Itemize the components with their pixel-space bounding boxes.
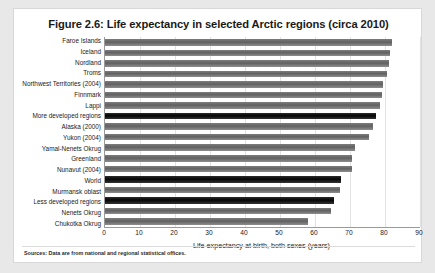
bar-row <box>105 153 420 163</box>
bar <box>105 113 376 120</box>
bar <box>105 166 352 173</box>
category-label: Troms <box>14 69 103 76</box>
x-tick-label: 50 <box>275 229 282 236</box>
category-label: Nordland <box>14 59 103 66</box>
category-label: Iceland <box>14 48 103 55</box>
bar-row <box>105 37 420 47</box>
bar-row <box>105 111 420 121</box>
category-label: Nunavut (2004) <box>14 166 103 173</box>
source-note: Sources: Data are from national and regi… <box>24 250 186 256</box>
bar-row <box>105 185 420 195</box>
category-label: Finnmark <box>14 91 103 98</box>
bar-row <box>105 206 420 216</box>
category-label: Chukotka Okrug <box>14 220 103 227</box>
bar <box>105 134 369 141</box>
x-tick-label: 70 <box>345 229 352 236</box>
bar <box>105 50 390 57</box>
bar-row <box>105 48 420 58</box>
x-tick-label: 40 <box>240 229 247 236</box>
category-label: Yukon (2004) <box>14 134 103 141</box>
category-label: Murmansk oblast <box>14 188 103 195</box>
gridline <box>420 37 421 227</box>
x-tick-label: 90 <box>415 229 422 236</box>
figure-card: Figure 2.6: Life expectancy in selected … <box>13 8 422 263</box>
category-label: Yamal-Nenets Okrug <box>14 145 103 152</box>
x-tick-label: 60 <box>310 229 317 236</box>
category-label: World <box>14 177 103 184</box>
bar-row <box>105 79 420 89</box>
x-tick-label: 30 <box>205 229 212 236</box>
bar <box>105 71 387 78</box>
bar-row <box>105 143 420 153</box>
x-axis-ticks: 0102030405060708090 <box>104 229 419 241</box>
category-label: Greenland <box>14 155 103 162</box>
bar-row <box>105 101 420 111</box>
bar-row <box>105 122 420 132</box>
category-axis-labels: Faroe IslandsIcelandNordlandTromsNorthwe… <box>14 37 103 227</box>
bar <box>105 39 392 46</box>
category-label: Less developed regions <box>14 198 103 205</box>
bar-row <box>105 69 420 79</box>
bar <box>105 123 373 130</box>
bar-row <box>105 164 420 174</box>
bar <box>105 176 341 183</box>
bar-row <box>105 58 420 68</box>
bar-row <box>105 90 420 100</box>
bar <box>105 208 331 215</box>
x-tick-label: 0 <box>102 229 106 236</box>
x-tick-label: 10 <box>135 229 142 236</box>
bar <box>105 102 380 109</box>
bar-series <box>105 37 420 227</box>
bar-row <box>105 195 420 205</box>
bar <box>105 144 355 151</box>
category-label: Lappi <box>14 102 103 109</box>
chart-plot-wrapper: Faroe IslandsIcelandNordlandTromsNorthwe… <box>14 29 423 234</box>
category-label: Alaska (2000) <box>14 123 103 130</box>
x-tick-label: 80 <box>380 229 387 236</box>
bar-row <box>105 174 420 184</box>
bar <box>105 92 382 99</box>
bar <box>105 197 334 204</box>
bar-row <box>105 217 420 227</box>
category-label: Faroe Islands <box>14 37 103 44</box>
bar <box>105 60 389 67</box>
plot-area <box>104 37 420 228</box>
bar <box>105 218 308 225</box>
bar <box>105 187 340 194</box>
category-label: Nenets Okrug <box>14 209 103 216</box>
x-tick-label: 20 <box>170 229 177 236</box>
bar <box>105 155 352 162</box>
source-divider <box>22 246 415 247</box>
bar <box>105 81 383 88</box>
category-label: Northwest Territories (2004) <box>14 80 103 87</box>
bar-row <box>105 132 420 142</box>
category-label: More developed regions <box>14 112 103 119</box>
